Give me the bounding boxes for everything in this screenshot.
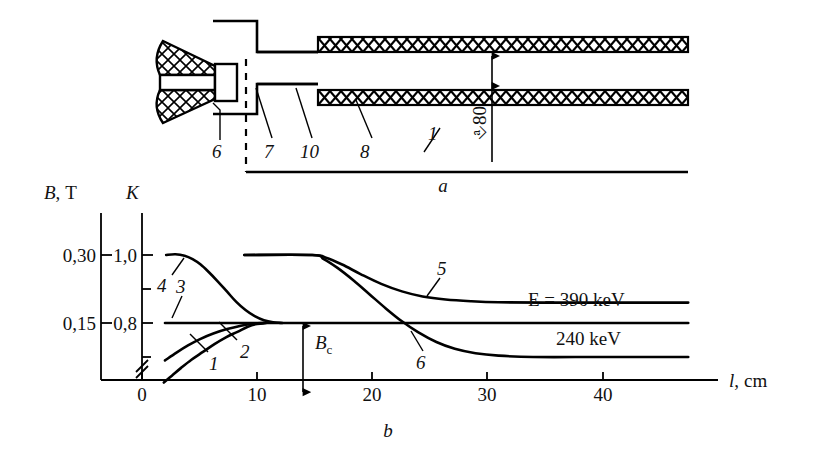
x-ticklabel-20: 20 bbox=[363, 384, 382, 405]
energy-240-label: 240 keV bbox=[556, 328, 621, 349]
curve-label-6: 6 bbox=[416, 352, 426, 373]
left-ticklabel-0.15: 0,15 bbox=[63, 313, 96, 334]
curve-label-3: 3 bbox=[175, 276, 186, 297]
curve-label-1: 1 bbox=[209, 353, 219, 374]
coil-upper-hatch-fill bbox=[318, 37, 688, 52]
bc-subscript: c bbox=[327, 342, 333, 357]
callout-label-6: 6 bbox=[212, 141, 222, 162]
cross-hatched-coil-band-lower bbox=[318, 90, 688, 105]
curve-label-4: 4 bbox=[157, 275, 167, 296]
k-ticklabel-0.8: 0,8 bbox=[113, 313, 137, 334]
cross-hatched-coil-band-upper bbox=[318, 37, 688, 52]
curve-label-5: 5 bbox=[437, 258, 447, 279]
x-axis-label: l,cm bbox=[729, 370, 767, 391]
curve-layer bbox=[164, 254, 688, 382]
bc-base: B bbox=[315, 332, 327, 353]
chart-panel-b: 0,30 0,15 1,0 0,8 B,T K 0 bbox=[44, 182, 767, 441]
x-ticklabel-30: 30 bbox=[478, 384, 497, 405]
curve-label-2: 2 bbox=[240, 341, 250, 362]
schematic-panel-a: ⎀80 6 7 10 8 1 a bbox=[157, 21, 688, 196]
left-ticklabel-0.30: 0,30 bbox=[63, 245, 96, 266]
k-y-axis-label: K bbox=[125, 182, 140, 203]
upper-flange-profile bbox=[213, 21, 318, 52]
callout-label-8: 8 bbox=[360, 141, 370, 162]
panel-a-caption: a bbox=[438, 175, 448, 196]
x-ticklabel-0: 0 bbox=[137, 384, 147, 405]
funnel-upper-hatch bbox=[157, 41, 215, 75]
leader-curve-5 bbox=[427, 278, 440, 296]
leader-curve-3 bbox=[172, 296, 182, 318]
leader-6 bbox=[213, 103, 220, 140]
k-y-ticks bbox=[142, 255, 153, 357]
funnel-lower-hatch bbox=[157, 90, 215, 123]
x-ticklabel-40: 40 bbox=[594, 384, 613, 405]
left-y-ticks bbox=[101, 255, 112, 323]
leader-curve-4 bbox=[172, 258, 184, 275]
curve-label-leaders bbox=[172, 258, 440, 352]
left-y-axis-unit: T bbox=[65, 182, 77, 203]
callout-label-10: 10 bbox=[300, 141, 320, 162]
left-y-axis-label: B,T bbox=[44, 182, 77, 203]
x-ticklabel-10: 10 bbox=[248, 384, 267, 405]
bc-arrow-label: Bc bbox=[315, 332, 333, 357]
panel-b-caption: b bbox=[383, 420, 393, 441]
left-y-axis-sep: , bbox=[56, 182, 61, 203]
figure-canvas: ⎀80 6 7 10 8 1 a bbox=[0, 0, 814, 457]
leader-10 bbox=[296, 88, 312, 138]
leader-7 bbox=[256, 88, 272, 138]
coil-lower-hatch-fill bbox=[318, 90, 688, 105]
hatched-funnel-source bbox=[157, 41, 237, 123]
callout-label-7: 7 bbox=[264, 141, 275, 162]
source-extractor-box bbox=[215, 64, 237, 101]
callout-label-1: 1 bbox=[428, 123, 438, 144]
x-axis-sep: , bbox=[734, 370, 739, 391]
energy-390-label: E = 390 keV bbox=[528, 289, 625, 310]
bore-diameter-label: ⎀80 bbox=[469, 106, 490, 140]
x-axis-unit: cm bbox=[744, 370, 767, 391]
figure-root: ⎀80 6 7 10 8 1 a bbox=[0, 0, 814, 457]
source-aperture-body bbox=[160, 75, 215, 90]
left-y-axis-symbol: B bbox=[44, 182, 56, 203]
k-ticklabel-1.0: 1,0 bbox=[113, 245, 137, 266]
